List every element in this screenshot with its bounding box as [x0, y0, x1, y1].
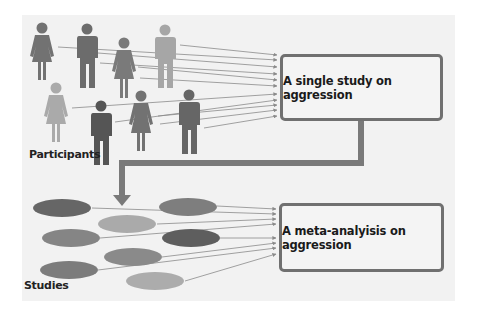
study-ellipse [40, 261, 98, 279]
study-ellipse [104, 248, 162, 266]
female-figure-icon [44, 83, 68, 143]
female-figure-icon [112, 38, 136, 99]
study-ellipse [42, 229, 100, 247]
participant-figures [30, 23, 200, 166]
flow-connector [113, 121, 364, 206]
meta-analysis-box: A meta-analyisis on aggression [279, 203, 444, 272]
studies-label: Studies [24, 279, 69, 292]
male-figure-icon [155, 25, 176, 89]
single-study-label: A single study on aggression [283, 74, 440, 102]
study-ellipse [126, 272, 184, 290]
participants-label: Participants [29, 148, 100, 161]
male-figure-icon [77, 24, 98, 89]
single-study-box: A single study on aggression [280, 54, 443, 121]
meta-analysis-label: A meta-analyisis on aggression [282, 224, 441, 252]
study-ellipse [159, 198, 217, 216]
study-ellipse [98, 215, 156, 233]
female-figure-icon [30, 23, 54, 81]
study-ellipses [33, 198, 220, 290]
female-figure-icon [129, 91, 153, 152]
study-ellipse [162, 229, 220, 247]
study-ellipse [33, 199, 91, 217]
